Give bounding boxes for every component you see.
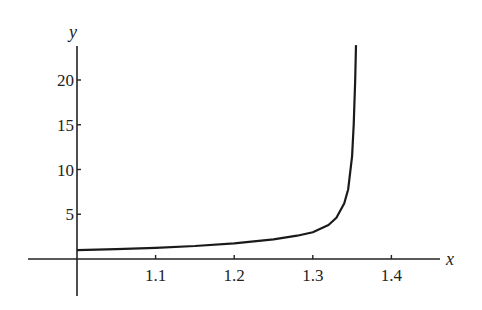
y-axis-label: y — [67, 22, 77, 42]
y-tick-label: 20 — [57, 71, 74, 90]
x-tick-label: 1.2 — [224, 266, 245, 285]
data-curve — [77, 45, 356, 250]
y-tick-label: 15 — [57, 116, 74, 135]
x-tick-label: 1.3 — [302, 266, 323, 285]
chart: 1.11.21.31.4 5101520 x y — [0, 0, 482, 310]
x-axis-label: x — [445, 249, 454, 269]
x-tick-label: 1.1 — [145, 266, 166, 285]
y-tick-label: 10 — [57, 161, 74, 180]
x-tick-label: 1.4 — [381, 266, 403, 285]
y-tick-label: 5 — [66, 205, 75, 224]
